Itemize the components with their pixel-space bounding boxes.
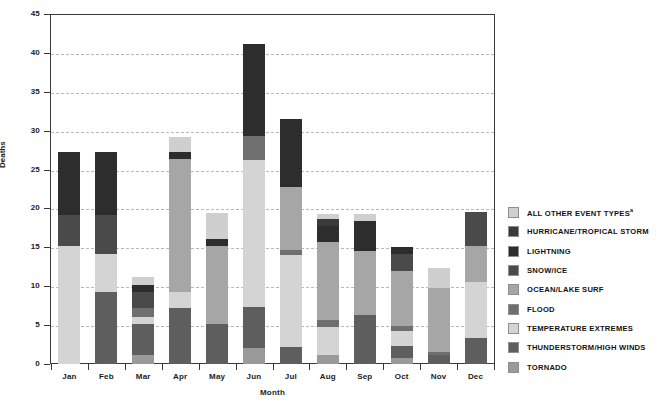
chart-figure: Deaths 051015202530354045 JanFebMarAprMa… xyxy=(0,0,668,404)
bar-stack xyxy=(280,14,302,364)
bar-stack xyxy=(58,14,80,364)
bar-segment xyxy=(169,292,191,308)
legend-item-label: HURRICANE/TROPICAL STORM xyxy=(527,227,649,236)
x-axis-tick-label: Oct xyxy=(382,372,422,381)
legend-swatch-icon xyxy=(508,362,519,373)
x-axis-tick-label: May xyxy=(197,372,237,381)
x-axis-tick-mark xyxy=(125,364,126,370)
bar-segment xyxy=(243,136,265,160)
legend-item-label: OCEAN/LAKE SURF xyxy=(527,285,604,294)
legend-item[interactable]: LIGHTNING xyxy=(508,242,649,261)
bar-segment xyxy=(169,152,191,159)
bar-segment xyxy=(132,285,154,293)
bar-segment xyxy=(428,288,450,353)
legend-item[interactable]: TORNADO xyxy=(508,357,649,376)
bar-segment xyxy=(465,282,487,339)
legend-item-label: SNOW/ICE xyxy=(527,266,567,275)
bar-segment xyxy=(391,358,413,364)
x-axis-tick-mark xyxy=(88,364,89,370)
bar-segment xyxy=(465,338,487,364)
legend-item[interactable]: OCEAN/LAKE SURF xyxy=(508,280,649,299)
bar-segment xyxy=(428,268,450,287)
y-axis-tick-label: 30 xyxy=(18,126,40,135)
x-axis-tick-mark xyxy=(457,364,458,370)
legend-item[interactable]: SNOW/ICE xyxy=(508,261,649,280)
y-axis-title: Deaths xyxy=(0,141,7,168)
bar-segment xyxy=(95,292,117,364)
legend-swatch-icon xyxy=(508,207,519,218)
bar-group xyxy=(51,15,494,364)
legend-item-label: ALL OTHER EVENT TYPESa xyxy=(527,207,633,218)
bar-stack xyxy=(132,14,154,364)
legend-item[interactable]: HURRICANE/TROPICAL STORM xyxy=(508,222,649,241)
legend-swatch-icon xyxy=(508,342,519,353)
bar-segment xyxy=(354,315,376,364)
bar-segment xyxy=(391,326,413,331)
legend-item-label: TEMPERATURE EXTREMES xyxy=(527,324,633,333)
bar-segment xyxy=(132,308,154,317)
legend-item-label: THUNDERSTORM/HIGH WINDS xyxy=(527,343,646,352)
x-axis-tick-mark xyxy=(309,364,310,370)
x-axis-tick-label: Jul xyxy=(271,372,311,381)
legend-swatch-icon xyxy=(508,284,519,295)
bar-segment xyxy=(95,152,117,214)
legend-item-label: TORNADO xyxy=(527,363,567,372)
x-axis-tick-label: Nov xyxy=(419,372,459,381)
bar-stack xyxy=(206,14,228,364)
x-axis-title: Month xyxy=(50,388,495,397)
x-axis-tick-label: Jan xyxy=(49,372,89,381)
bar-segment xyxy=(280,250,302,255)
bar-stack xyxy=(428,14,450,364)
y-axis-tick-label: 15 xyxy=(18,242,40,251)
x-axis-tick-mark xyxy=(273,364,274,370)
legend-item-label: FLOOD xyxy=(527,305,555,314)
bar-segment xyxy=(132,324,154,355)
x-axis-tick-mark xyxy=(51,364,52,370)
bar-segment xyxy=(465,212,487,245)
bar-segment xyxy=(354,221,376,251)
bar-segment xyxy=(391,247,413,255)
x-axis-tick-label: Apr xyxy=(160,372,200,381)
bar-segment xyxy=(391,254,413,270)
bar-segment xyxy=(354,251,376,315)
y-axis-tick-label: 40 xyxy=(18,48,40,57)
bar-segment xyxy=(391,271,413,326)
bar-segment xyxy=(317,214,339,219)
bar-stack xyxy=(169,14,191,364)
bar-segment xyxy=(206,246,228,324)
legend-item[interactable]: ALL OTHER EVENT TYPESa xyxy=(508,203,649,222)
legend: ALL OTHER EVENT TYPESaHURRICANE/TROPICAL… xyxy=(508,203,649,377)
bar-segment xyxy=(428,355,450,364)
bar-stack xyxy=(391,14,413,364)
bar-segment xyxy=(58,215,80,246)
x-axis-tick-label: Sep xyxy=(345,372,385,381)
bar-segment xyxy=(169,159,191,293)
x-axis-tick-mark xyxy=(494,364,495,370)
bar-segment xyxy=(132,292,154,308)
y-axis-tick-label: 5 xyxy=(18,320,40,329)
bar-stack xyxy=(465,14,487,364)
bar-segment xyxy=(243,307,265,348)
x-axis-tick-mark xyxy=(236,364,237,370)
y-axis-tick-label: 0 xyxy=(18,359,40,368)
legend-swatch-icon xyxy=(508,226,519,237)
x-axis-tick-mark xyxy=(346,364,347,370)
legend-item[interactable]: FLOOD xyxy=(508,299,649,318)
bar-segment xyxy=(132,317,154,323)
x-axis-tick-mark xyxy=(199,364,200,370)
x-axis-tick-label: Mar xyxy=(123,372,163,381)
bar-segment xyxy=(391,331,413,347)
bar-segment xyxy=(243,160,265,307)
legend-item[interactable]: THUNDERSTORM/HIGH WINDS xyxy=(508,338,649,357)
bar-segment xyxy=(391,346,413,358)
y-axis-tick-mark xyxy=(44,364,50,365)
bar-segment xyxy=(58,246,80,364)
legend-item[interactable]: TEMPERATURE EXTREMES xyxy=(508,319,649,338)
y-axis-tick-label: 10 xyxy=(18,281,40,290)
bar-segment xyxy=(280,347,302,364)
legend-item-label: LIGHTNING xyxy=(527,247,571,256)
bar-segment xyxy=(317,226,339,242)
bar-segment xyxy=(206,213,228,239)
bar-segment xyxy=(317,327,339,355)
bar-segment xyxy=(95,215,117,254)
